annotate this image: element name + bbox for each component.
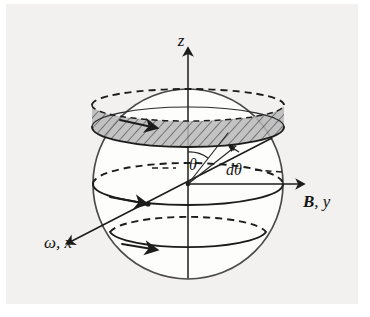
b-y-axis-label: B, y — [302, 192, 331, 211]
figure-container: z B, y ω, x θ dθ — [0, 0, 370, 317]
dtheta-label: dθ — [226, 161, 242, 178]
dtheta-vertex-dot — [231, 147, 235, 151]
x-axis-equator-intersection-dot — [145, 201, 150, 206]
z-axis-label: z — [177, 31, 185, 50]
y-axis-symbol: , y — [314, 192, 331, 211]
omega-x-axis-label: ω, x — [44, 233, 73, 252]
b-field-symbol: B — [302, 192, 314, 211]
theta-label: θ — [189, 156, 197, 173]
rotating-sphere-diagram: z B, y ω, x θ dθ — [0, 0, 370, 317]
